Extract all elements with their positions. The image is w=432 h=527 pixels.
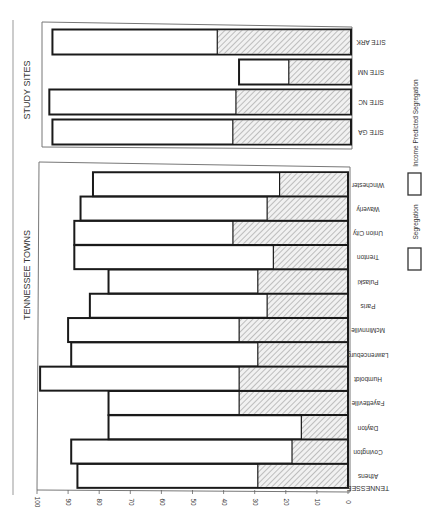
study-sites-header: STUDY SITES [22, 61, 32, 120]
bar-row [52, 120, 351, 145]
segregation-bar [267, 198, 347, 220]
bar-row [71, 440, 348, 464]
axis-tick-label: 70 [128, 498, 135, 506]
segregation-bar [280, 173, 347, 195]
category-label: Fayetteville [351, 399, 384, 407]
category-label: Union City [352, 229, 383, 237]
category-label: SITE NC [358, 99, 384, 106]
bar-row [90, 294, 348, 318]
bar-row [71, 342, 348, 366]
axis-tick-label: 100 [34, 497, 41, 508]
category-label: Athens [357, 473, 378, 480]
segregation-bar [289, 61, 350, 84]
category-label: McMinnville [351, 327, 385, 334]
segregation-bar [258, 270, 347, 292]
category-label: Lawrenceburg [347, 351, 389, 359]
legend: Segregation Income Predicted Segregation [408, 79, 421, 270]
category-label: Waverly [356, 205, 380, 213]
category-label: Pulaski [358, 279, 379, 286]
category-label: SITE NM [358, 69, 384, 76]
segregation-bar [236, 91, 350, 114]
segregation-bar [258, 465, 347, 487]
segregation-bar [292, 441, 347, 463]
segregation-bar-chart: STUDY SITES TENNESSEE TOWNS AthensCoving… [0, 0, 432, 527]
legend-swatch-income-predicted [408, 173, 421, 195]
category-label: Humboldt [354, 376, 382, 383]
bar-row [49, 90, 351, 115]
axis-tick-label: 20 [283, 498, 290, 506]
segregation-bar [239, 319, 347, 341]
bar-row [93, 172, 348, 196]
bar-row [52, 30, 351, 55]
category-label: Dayton [357, 424, 378, 432]
bar-row [81, 197, 348, 221]
segregation-bar [267, 295, 347, 317]
bar-row [109, 391, 348, 415]
legend-label-income-predicted: Income Predicted Segregation [412, 79, 420, 167]
axis-tick-label: 30 [252, 498, 259, 506]
category-labels: AthensCovingtonDaytonFayettevilleHumbold… [346, 39, 389, 492]
study-sites-bars [49, 30, 351, 145]
bar-row [40, 367, 348, 391]
bar-row [109, 415, 348, 439]
axis-tick-label: 60 [159, 498, 166, 506]
segregation-bar [301, 416, 347, 438]
category-label: SITE ARK [356, 39, 386, 46]
bar-row [109, 269, 348, 293]
category-label: Winchester [351, 182, 384, 189]
tennessee-towns-header: TENNESSEE TOWNS [22, 230, 32, 320]
segregation-bar [233, 121, 350, 144]
segregation-bar [217, 31, 350, 54]
axis-tick-label: 50 [190, 498, 197, 506]
axis-tick-label: 10 [314, 498, 321, 506]
bar-row [77, 464, 348, 488]
segregation-bar [273, 246, 347, 268]
category-label: Covington [353, 448, 383, 456]
axis-tick-label: 90 [65, 498, 72, 506]
segregation-bar [233, 222, 347, 244]
segregation-bar [239, 368, 347, 390]
axis-tick-label: 80 [96, 498, 103, 506]
segregation-bar [239, 392, 347, 414]
axis-tick-label: 0 [345, 500, 352, 504]
value-axis: 0102030405060708090100 [34, 490, 352, 508]
category-label: SITE GA [358, 129, 384, 136]
bar-row [239, 60, 351, 85]
legend-label-segregation: Segregation [412, 204, 420, 239]
segregation-bar [258, 343, 347, 365]
tennessee-axis-label: TENNESSEE [346, 485, 389, 492]
tennessee-bars [40, 172, 348, 488]
axis-tick-label: 40 [221, 498, 228, 506]
bar-row [74, 245, 348, 269]
bar-row [68, 318, 348, 342]
category-label: Trenton [357, 254, 380, 261]
category-label: Paris [360, 303, 376, 310]
bar-row [74, 221, 348, 245]
legend-swatch-segregation [408, 248, 421, 270]
